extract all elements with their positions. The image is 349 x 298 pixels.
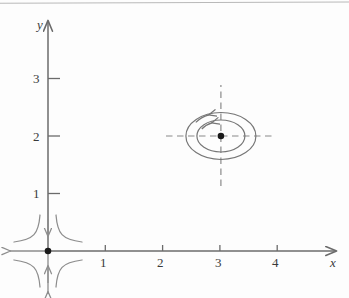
x-axis-ticks: [105, 245, 277, 251]
axes-group: [10, 21, 336, 292]
saddle-branch-q4: [56, 260, 82, 287]
x-tick-label-1: 1: [100, 256, 107, 269]
x-tick-label-2: 2: [157, 256, 164, 269]
center-equilibrium-dot: [218, 133, 225, 140]
center-point-group: [166, 85, 276, 186]
saddle-branch-q2: [14, 215, 40, 242]
saddle-branch-q1: [56, 215, 82, 242]
orbit-inner-direction-arrow: [202, 123, 212, 129]
x-tick-label-4: 4: [272, 256, 279, 269]
phase-portrait-figure: 1 2 3 4 1 2 3 x y: [0, 0, 349, 298]
y-axis-label: y: [37, 18, 43, 31]
x-tick-label-3: 3: [215, 256, 222, 269]
saddle-branch-q3: [14, 260, 40, 287]
x-axis-label: x: [330, 256, 336, 269]
y-tick-label-1: 1: [33, 187, 40, 200]
page-top-rule: [0, 2, 349, 3]
y-axis-ticks: [48, 79, 60, 194]
saddle-equilibrium-dot: [45, 248, 52, 255]
y-tick-label-3: 3: [33, 72, 40, 85]
phase-portrait-canvas: [0, 0, 349, 298]
y-tick-label-2: 2: [33, 130, 40, 143]
